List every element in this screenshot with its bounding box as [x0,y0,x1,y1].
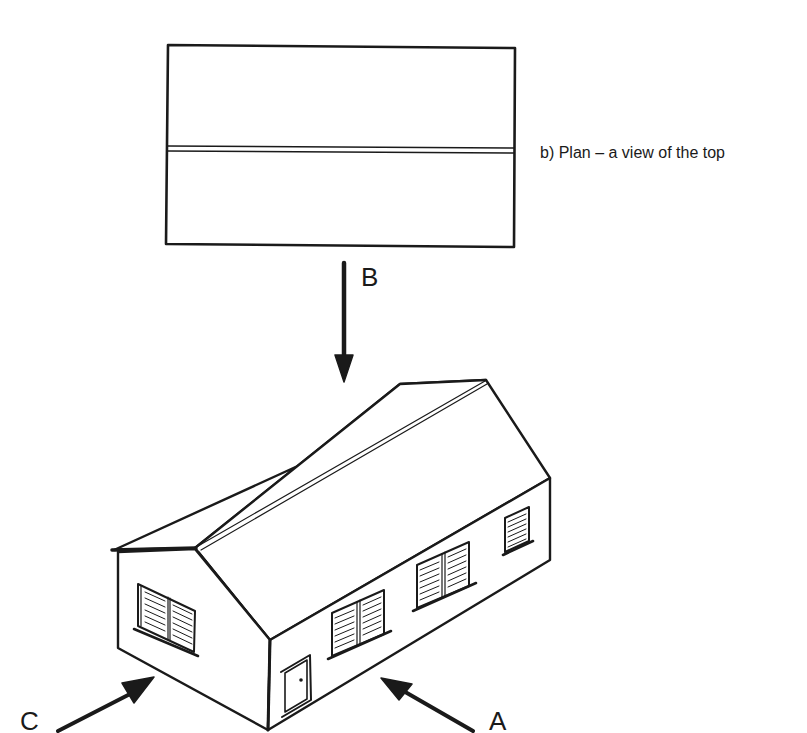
plan-caption: b) Plan – a view of the top [540,145,725,161]
arrow-c-icon [58,677,154,731]
label-b: B [361,264,378,290]
diagram-canvas [0,0,807,733]
house-icon [112,380,550,730]
arrow-a-icon [381,678,473,731]
arrow-b-icon [335,263,353,382]
label-a: A [489,708,506,733]
label-c: C [20,708,39,733]
plan-view-icon [166,45,515,247]
